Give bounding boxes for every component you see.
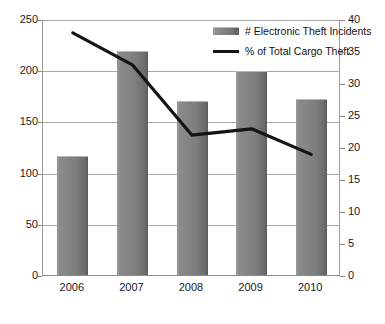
x-axis-tick-label: 2010 bbox=[280, 281, 340, 293]
right-axis-tick-mark bbox=[340, 148, 345, 149]
x-axis-tick-label: 2007 bbox=[101, 281, 161, 293]
left-axis-tick-mark bbox=[37, 71, 42, 72]
legend-label-line: % of Total Cargo Theft bbox=[245, 45, 349, 57]
bar-swatch-icon bbox=[213, 27, 239, 35]
right-axis-tick-label: 10 bbox=[348, 206, 360, 217]
right-axis-tick-label: 40 bbox=[348, 14, 360, 25]
chart-container: 20062007200820092010 # Electronic Theft … bbox=[0, 0, 385, 324]
right-axis-tick-mark bbox=[340, 244, 345, 245]
left-axis-tick-mark bbox=[37, 174, 42, 175]
left-axis-tick-mark bbox=[37, 225, 42, 226]
right-axis-tick-label: 30 bbox=[348, 78, 360, 89]
line-swatch-icon bbox=[213, 50, 239, 53]
right-axis-tick-mark bbox=[340, 180, 345, 181]
right-axis-tick-mark bbox=[340, 84, 345, 85]
right-axis-tick-mark bbox=[340, 52, 345, 53]
right-axis-tick-label: 0 bbox=[348, 270, 354, 281]
right-axis-tick-label: 15 bbox=[348, 174, 360, 185]
x-axis-tick-label: 2006 bbox=[42, 281, 102, 293]
right-axis-tick-label: 25 bbox=[348, 110, 360, 121]
right-axis-tick-mark bbox=[340, 20, 345, 21]
right-axis-tick-mark bbox=[340, 212, 345, 213]
legend-item-line: % of Total Cargo Theft bbox=[213, 42, 343, 60]
left-axis-tick-mark bbox=[37, 276, 42, 277]
left-axis-tick-mark bbox=[37, 122, 42, 123]
x-axis-tick-label: 2009 bbox=[221, 281, 281, 293]
legend-item-bar: # Electronic Theft Incidents bbox=[213, 22, 343, 40]
left-axis-tick-label: 250 bbox=[20, 14, 38, 25]
x-axis-tick-label: 2008 bbox=[161, 281, 221, 293]
right-axis-tick-mark bbox=[340, 116, 345, 117]
legend-label-bar: # Electronic Theft Incidents bbox=[245, 25, 371, 37]
left-axis-tick-label: 200 bbox=[20, 65, 38, 76]
left-axis-tick-mark bbox=[37, 20, 42, 21]
left-axis-tick-label: 100 bbox=[20, 168, 38, 179]
x-axis-baseline bbox=[42, 275, 340, 276]
right-axis-tick-label: 5 bbox=[348, 238, 354, 249]
right-axis-tick-label: 35 bbox=[348, 46, 360, 57]
left-axis-tick-label: 150 bbox=[20, 116, 38, 127]
right-axis-tick-mark bbox=[340, 276, 345, 277]
right-axis-tick-label: 20 bbox=[348, 142, 360, 153]
chart-legend: # Electronic Theft Incidents % of Total … bbox=[213, 22, 343, 62]
